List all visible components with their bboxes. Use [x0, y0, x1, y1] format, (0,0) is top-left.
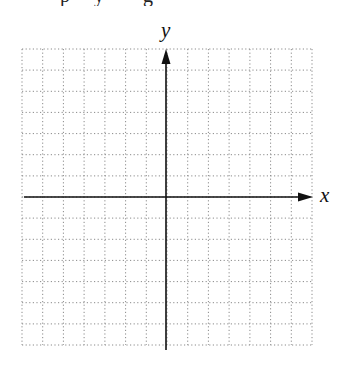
coordinate-plane [0, 0, 337, 365]
axes [24, 49, 313, 350]
y-axis-arrow-icon [162, 49, 171, 64]
x-axis-label: x [320, 185, 329, 206]
y-axis-label: y [161, 20, 170, 41]
x-axis-arrow-icon [298, 193, 313, 202]
